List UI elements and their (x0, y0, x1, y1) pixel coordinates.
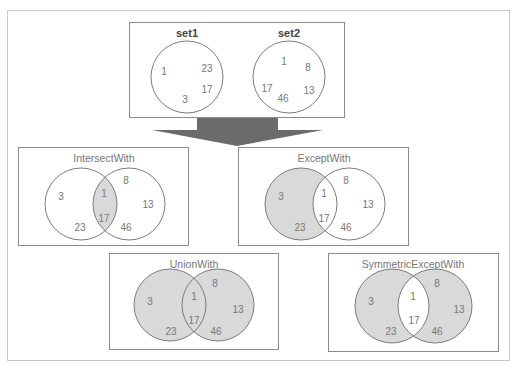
except-with-panel: ExceptWith 3 23 1 17 8 13 46 (239, 148, 409, 246)
right-only-element: 13 (453, 304, 465, 315)
set2-element: 13 (303, 85, 315, 96)
except-with-title: ExceptWith (297, 152, 350, 164)
set1-element: 3 (182, 94, 188, 105)
set1-element: 17 (201, 84, 213, 95)
set1-element: 1 (161, 66, 167, 77)
source-sets-panel: set1 set2 1 23 17 3 1 8 17 13 46 (130, 23, 345, 118)
left-only-element: 3 (278, 191, 284, 202)
right-only-element: 8 (434, 278, 440, 289)
both-element: 17 (188, 315, 200, 326)
right-only-element: 13 (232, 304, 244, 315)
right-only-element: 46 (431, 326, 443, 337)
both-element: 17 (408, 315, 420, 326)
right-only-element: 8 (212, 278, 218, 289)
both-element: 1 (321, 188, 327, 199)
set2-element: 1 (281, 56, 287, 67)
right-only-element: 8 (123, 175, 129, 186)
intersect-with-title: IntersectWith (73, 152, 134, 164)
set1-element: 23 (201, 63, 213, 74)
left-only-element: 23 (294, 222, 306, 233)
set2-title: set2 (278, 27, 300, 39)
right-only-element: 13 (362, 199, 374, 210)
set2-element: 46 (277, 93, 289, 104)
both-element: 17 (318, 213, 330, 224)
union-with-panel: UnionWith 3 23 1 17 8 13 46 (110, 254, 279, 350)
symmetric-except-with-panel: SymmetricExceptWith 3 23 1 17 8 13 46 (329, 254, 499, 352)
set-operations-diagram: set1 set2 1 23 17 3 1 8 17 13 46 Interse… (0, 0, 516, 365)
intersect-with-panel: IntersectWith 3 23 1 17 8 13 46 (19, 148, 189, 246)
set2-element: 17 (261, 83, 273, 94)
symmetric-except-with-title: SymmetricExceptWith (362, 258, 465, 270)
right-only-element: 46 (120, 222, 132, 233)
left-only-element: 23 (385, 326, 397, 337)
both-element: 1 (410, 291, 416, 302)
right-only-element: 46 (340, 222, 352, 233)
left-only-element: 3 (368, 296, 374, 307)
both-element: 17 (98, 213, 110, 224)
right-only-element: 8 (343, 175, 349, 186)
both-element: 1 (191, 291, 197, 302)
left-only-element: 23 (165, 326, 177, 337)
left-only-element: 3 (58, 191, 64, 202)
left-only-element: 3 (147, 296, 153, 307)
right-only-element: 46 (210, 326, 222, 337)
both-element: 1 (101, 188, 107, 199)
left-only-element: 23 (74, 222, 86, 233)
union-with-title: UnionWith (170, 258, 219, 270)
right-only-element: 13 (142, 199, 154, 210)
set2-element: 8 (305, 62, 311, 73)
set1-title: set1 (176, 27, 198, 39)
